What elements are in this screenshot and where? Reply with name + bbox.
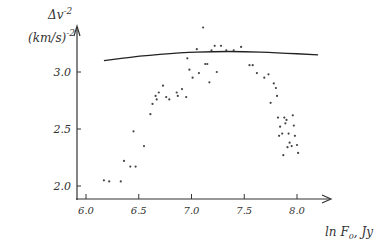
- x-tick-label: 6.5: [131, 205, 147, 216]
- envelope-curve: [104, 51, 318, 60]
- data-point: [192, 77, 194, 79]
- plot-area: 6.06.57.07.58.02.02.53.0 Δv-2 (km/s)-2 l…: [0, 0, 385, 243]
- data-point: [202, 26, 204, 28]
- data-point: [208, 81, 210, 83]
- data-point: [204, 63, 206, 65]
- data-point: [294, 135, 296, 137]
- axes: 6.06.57.07.58.02.02.53.0: [53, 26, 332, 216]
- data-point: [155, 95, 157, 97]
- data-point: [181, 88, 183, 90]
- data-point: [210, 49, 212, 51]
- data-point: [279, 126, 281, 128]
- data-point: [198, 72, 200, 74]
- data-point: [281, 133, 283, 135]
- data-point: [108, 180, 110, 182]
- data-point: [293, 125, 295, 127]
- data-point: [233, 49, 235, 51]
- data-point: [149, 113, 151, 115]
- data-point: [277, 117, 279, 119]
- y-axis-label-line2: (km/s)-2: [28, 28, 75, 45]
- data-point: [240, 46, 242, 48]
- data-point: [206, 63, 208, 65]
- data-point: [143, 145, 145, 147]
- data-point: [177, 95, 179, 97]
- data-point: [165, 96, 167, 98]
- x-tick-label: 6.0: [78, 205, 95, 216]
- data-point: [273, 82, 275, 84]
- data-point: [283, 117, 285, 119]
- y-tick-label: 2.5: [53, 123, 72, 136]
- data-point: [214, 45, 216, 47]
- data-point: [120, 180, 122, 182]
- data-point: [292, 114, 294, 116]
- data-point: [135, 166, 137, 168]
- data-point: [276, 95, 278, 97]
- data-point: [129, 166, 131, 168]
- data-point: [188, 69, 190, 71]
- data-point: [162, 85, 164, 87]
- scatter-chart: 6.06.57.07.58.02.02.53.0 Δv-2 (km/s)-2 l…: [0, 0, 385, 243]
- data-point: [151, 103, 153, 105]
- data-point: [123, 160, 125, 162]
- x-tick-label: 7.5: [236, 205, 252, 216]
- x-tick-label: 8.0: [289, 205, 306, 216]
- data-point: [285, 119, 287, 121]
- data-point: [282, 154, 284, 156]
- data-point: [256, 72, 258, 74]
- data-point: [186, 57, 188, 59]
- data-point: [158, 91, 160, 93]
- envelope-line: [104, 51, 318, 60]
- y-tick-label: 2.0: [53, 180, 72, 193]
- data-point: [156, 98, 158, 100]
- data-point: [275, 87, 277, 89]
- data-point: [297, 152, 299, 154]
- data-point: [225, 49, 227, 51]
- data-point: [168, 98, 170, 100]
- data-point: [267, 73, 269, 75]
- data-point: [185, 96, 187, 98]
- data-point: [270, 102, 272, 104]
- data-point: [103, 179, 105, 181]
- data-point: [284, 122, 286, 124]
- data-point: [196, 48, 198, 50]
- data-point: [278, 135, 280, 137]
- data-point: [291, 145, 293, 147]
- data-point: [176, 91, 178, 93]
- data-point: [289, 142, 291, 144]
- y-axis-label-line1: Δv-2: [47, 6, 72, 22]
- data-point: [286, 146, 288, 148]
- data-point: [252, 64, 254, 66]
- data-point: [216, 71, 218, 73]
- y-tick-label: 3.0: [54, 66, 72, 79]
- x-axis-label: ln F0, Jy: [325, 225, 373, 241]
- data-point: [296, 144, 298, 146]
- x-tick-label: 7.0: [184, 205, 201, 216]
- data-points: [103, 26, 299, 182]
- data-point: [132, 130, 134, 132]
- data-point: [263, 77, 265, 79]
- data-point: [220, 45, 222, 47]
- data-point: [248, 64, 250, 66]
- data-point: [288, 133, 290, 135]
